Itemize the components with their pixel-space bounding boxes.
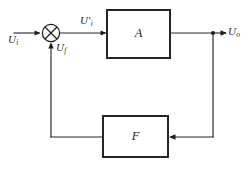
signal-feedback-base: U	[56, 41, 64, 53]
input-arrowhead	[35, 30, 41, 35]
block-amplifier-label: A	[134, 26, 143, 40]
signal-error-base: U	[80, 14, 88, 26]
block-amplifier: A	[107, 10, 170, 58]
feedback-input-arrowhead	[169, 134, 176, 139]
output-wire	[213, 30, 227, 35]
diagram-svg: A F	[0, 0, 250, 174]
output-arrowhead	[221, 30, 228, 35]
summing-junction	[42, 24, 59, 41]
signal-label-output: Uo	[228, 26, 240, 37]
signal-output-subscript: o	[236, 30, 240, 39]
error-arrowhead	[101, 30, 107, 35]
signal-label-feedback: Uf	[56, 42, 66, 53]
signal-error-subscript: i	[91, 19, 93, 28]
block-feedback: F	[103, 116, 168, 157]
signal-output-base: U	[228, 25, 236, 37]
block-diagram-canvas: A F Ui U′i	[0, 0, 250, 174]
block-feedback-label: F	[131, 129, 140, 143]
feedback-arrowhead	[48, 42, 53, 48]
signal-label-input: Ui	[8, 34, 18, 45]
feedback-return-wire	[48, 42, 103, 137]
signal-input-subscript: i	[16, 38, 18, 47]
signal-input-base: U	[8, 33, 16, 45]
signal-feedback-subscript: f	[64, 46, 66, 55]
signal-label-error: U′i	[80, 15, 92, 26]
error-wire	[60, 30, 107, 35]
signal-error-prime: ′	[88, 14, 90, 26]
tap-down-wire	[169, 33, 213, 140]
